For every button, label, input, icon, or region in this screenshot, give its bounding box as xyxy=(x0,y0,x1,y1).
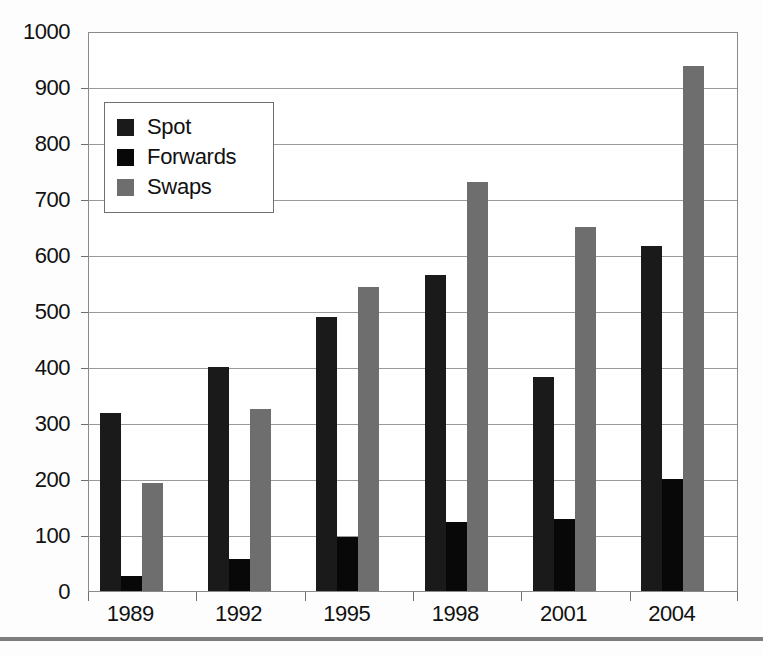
legend-label: Spot xyxy=(147,116,191,138)
x-axis: 198919921995199820012004 xyxy=(88,601,738,635)
y-tick-label-1000: 1000 xyxy=(23,19,70,45)
gridline-400 xyxy=(89,368,737,369)
bar-swaps-1989 xyxy=(142,483,163,591)
x-tick-mark-1 xyxy=(196,592,197,601)
y-tick-label-300: 300 xyxy=(35,411,70,437)
bar-forwards-2001 xyxy=(554,519,575,591)
legend-label: Swaps xyxy=(147,176,212,198)
y-tick-mark-100 xyxy=(81,536,88,537)
gridline-200 xyxy=(89,480,737,481)
y-tick-mark-400 xyxy=(81,368,88,369)
x-tick-mark-2 xyxy=(305,592,306,601)
gridline-300 xyxy=(89,424,737,425)
bar-swaps-2001 xyxy=(575,227,596,591)
y-tick-label-0: 0 xyxy=(58,579,70,605)
x-tick-label-1998: 1998 xyxy=(432,601,479,627)
gridline-600 xyxy=(89,256,737,257)
x-axis-ticks xyxy=(88,592,738,601)
x-tick-mark-3 xyxy=(413,592,414,601)
x-tick-label-1992: 1992 xyxy=(215,601,262,627)
legend-label: Forwards xyxy=(147,146,236,168)
bar-spot-1989 xyxy=(100,413,121,591)
bar-spot-1995 xyxy=(316,317,337,591)
bar-swaps-1998 xyxy=(467,182,488,591)
bar-forwards-1992 xyxy=(229,559,250,591)
y-tick-label-400: 400 xyxy=(35,355,70,381)
bar-spot-2004 xyxy=(641,246,662,591)
x-tick-label-1995: 1995 xyxy=(323,601,370,627)
legend-swatch-spot-icon xyxy=(117,119,134,136)
y-tick-label-900: 900 xyxy=(35,75,70,101)
y-tick-mark-500 xyxy=(81,312,88,313)
y-axis: 01002003004005006007008009001000 xyxy=(0,32,80,592)
bar-chart: 01002003004005006007008009001000 1989199… xyxy=(0,0,763,656)
y-tick-mark-300 xyxy=(81,424,88,425)
y-tick-mark-700 xyxy=(81,200,88,201)
bar-forwards-2004 xyxy=(662,479,683,591)
bar-swaps-1992 xyxy=(250,409,271,591)
y-tick-label-600: 600 xyxy=(35,243,70,269)
x-tick-mark-4 xyxy=(521,592,522,601)
y-tick-label-200: 200 xyxy=(35,467,70,493)
bar-forwards-1998 xyxy=(446,522,467,591)
legend-item-forwards: Forwards xyxy=(117,142,263,172)
bar-spot-1992 xyxy=(208,367,229,591)
bar-swaps-1995 xyxy=(358,287,379,591)
y-tick-label-500: 500 xyxy=(35,299,70,325)
bar-swaps-2004 xyxy=(683,66,704,591)
bar-forwards-1989 xyxy=(121,576,142,591)
y-tick-mark-900 xyxy=(81,88,88,89)
y-tick-label-100: 100 xyxy=(35,523,70,549)
y-tick-label-700: 700 xyxy=(35,187,70,213)
x-tick-label-1989: 1989 xyxy=(107,601,154,627)
x-tick-mark-end xyxy=(737,592,738,601)
y-tick-mark-800 xyxy=(81,144,88,145)
gridline-500 xyxy=(89,312,737,313)
y-tick-label-800: 800 xyxy=(35,131,70,157)
gridline-100 xyxy=(89,536,737,537)
bar-spot-2001 xyxy=(533,377,554,591)
x-tick-mark-5 xyxy=(630,592,631,601)
x-tick-mark-0 xyxy=(88,592,89,601)
legend-swatch-forwards-icon xyxy=(117,149,134,166)
bar-forwards-1995 xyxy=(337,537,358,591)
legend-item-spot: Spot xyxy=(117,112,263,142)
legend-swatch-swaps-icon xyxy=(117,179,134,196)
gridline-900 xyxy=(89,88,737,89)
bar-spot-1998 xyxy=(425,275,446,591)
y-tick-mark-200 xyxy=(81,480,88,481)
chart-legend: SpotForwardsSwaps xyxy=(104,102,274,213)
legend-item-swaps: Swaps xyxy=(117,172,263,202)
footer-divider xyxy=(0,637,763,641)
y-tick-mark-600 xyxy=(81,256,88,257)
x-tick-label-2004: 2004 xyxy=(648,601,695,627)
x-tick-label-2001: 2001 xyxy=(540,601,587,627)
